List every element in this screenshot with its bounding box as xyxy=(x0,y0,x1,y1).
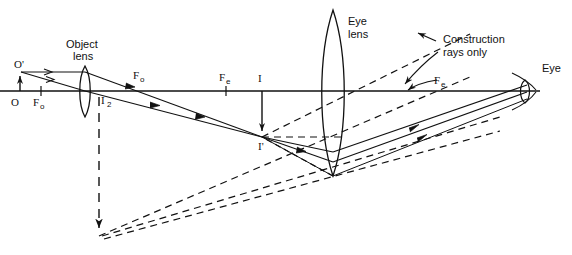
svg-text:e: e xyxy=(441,80,446,89)
construction-rays xyxy=(99,34,500,239)
label-eye-focus-left: F e xyxy=(219,71,231,86)
label-image-axis: I xyxy=(258,72,262,84)
optics-diagram: O' O F o Object lens I 2 F o F e I I' xyxy=(0,0,572,255)
diagram-labels: O' O F o Object lens I 2 F o F e I I' xyxy=(11,15,561,152)
label-object-focus-right: F o xyxy=(133,69,145,84)
label-axis-origin: O xyxy=(11,96,19,108)
svg-text:o: o xyxy=(140,75,145,84)
svg-text:2: 2 xyxy=(107,100,112,109)
svg-text:F: F xyxy=(434,74,440,86)
label-eye-lens-line1: Eye xyxy=(348,15,367,27)
label-eye-lens-line2: lens xyxy=(348,28,369,40)
label-object-point: O' xyxy=(14,58,24,70)
svg-text:F: F xyxy=(219,71,225,83)
label-construction-line1: Construction xyxy=(443,33,505,45)
label-eye-focus-right: F e xyxy=(434,74,446,89)
emergent-parallel-rays xyxy=(262,85,527,176)
label-object-focus-left: F o xyxy=(33,96,45,111)
ray-diagram-svg: O' O F o Object lens I 2 F o F e I I' xyxy=(0,0,572,255)
eye-lens xyxy=(322,10,345,176)
object-rays-incident xyxy=(21,69,85,91)
label-eye: Eye xyxy=(542,62,561,74)
label-object-lens-line1: Object xyxy=(66,38,98,50)
svg-text:F: F xyxy=(33,96,39,108)
label-construction-line2: rays only xyxy=(443,46,488,58)
svg-text:I: I xyxy=(101,94,105,106)
svg-text:e: e xyxy=(226,77,231,86)
label-image-point: I' xyxy=(258,140,264,152)
svg-text:F: F xyxy=(133,69,139,81)
label-object-lens-line2: lens xyxy=(73,50,94,62)
object-rays-refracted xyxy=(85,72,262,137)
svg-text:o: o xyxy=(40,102,45,111)
